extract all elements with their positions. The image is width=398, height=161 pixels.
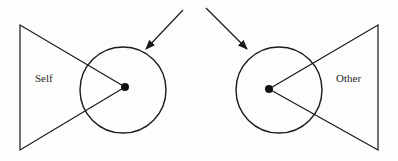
- self-incoming-arrow: [146, 10, 183, 49]
- self-label: Self: [35, 73, 53, 84]
- diagram-canvas: Self Other: [0, 0, 398, 161]
- other-circle: [236, 47, 322, 133]
- other-triangle: [269, 25, 378, 150]
- other-center-dot: [265, 85, 273, 93]
- other-label: Other: [336, 73, 361, 84]
- other-incoming-arrow: [206, 8, 247, 49]
- self-center-dot: [121, 83, 129, 91]
